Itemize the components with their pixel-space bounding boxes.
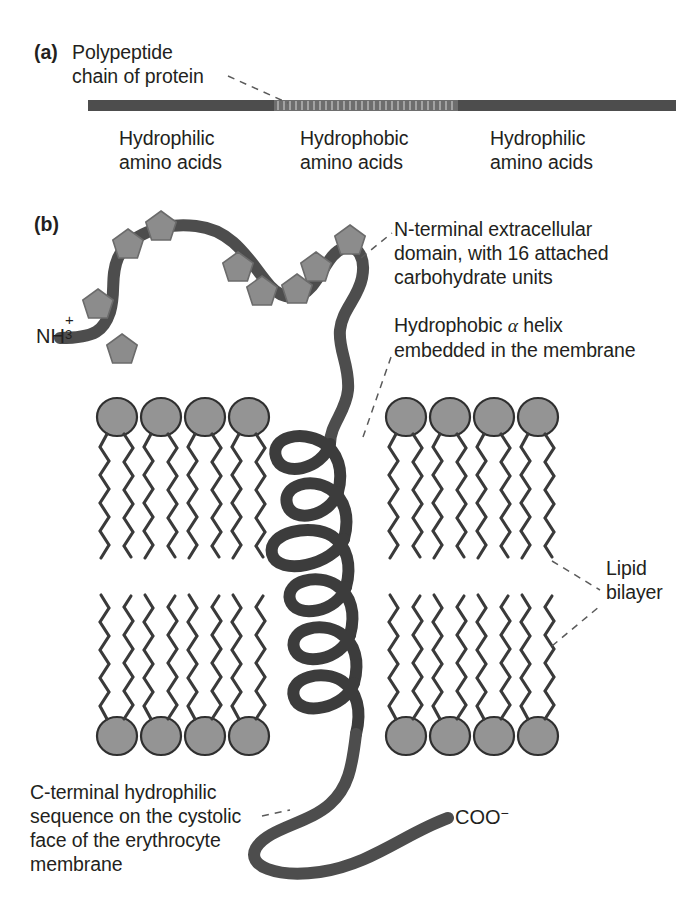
lipids-lower-left [97,595,269,755]
lipids-upper-right [386,398,558,558]
segment-label-hydrophobic: Hydrophobic amino acids [300,126,408,174]
leader-lipid-bilayer-upper [552,561,600,590]
n-terminus-charge: + [65,311,74,328]
annotation-hydrophobic-helix: Hydrophobic α helix embedded in the memb… [394,313,636,362]
c-terminus-formula: COO [455,806,501,828]
annotation-helix-text-before: Hydrophobic [394,314,508,336]
lipids-upper-left [97,398,269,558]
n-terminus-label: NH+3 [36,323,74,348]
alpha-helix [272,436,359,734]
annotation-n-terminal-domain: N-terminal extracellular domain, with 16… [394,217,608,289]
bar-hydrophilic-right [458,100,676,111]
annotation-lipid-bilayer: Lipid bilayer [606,556,663,604]
panel-a-tag: (a) [34,41,58,64]
chain-cytosolic-segment [254,734,448,874]
panel-b-tag: (b) [34,213,59,236]
bar-hydrophilic-left [88,100,274,111]
leader-polypeptide-chain [228,76,288,103]
c-terminus-label: COO− [455,805,509,829]
figure-canvas: (a) Polypeptide chain of protein Hydroph… [0,0,682,921]
protein-chain [60,225,448,873]
leader-lipid-bilayer-lower [552,606,600,646]
n-terminus-formula: NH [36,325,65,347]
panel-a-callout: Polypeptide chain of protein [72,40,204,88]
leader-c-terminal-sequence [262,810,290,816]
segment-label-hydrophilic-left: Hydrophilic amino acids [119,126,222,174]
segment-label-hydrophilic-right: Hydrophilic amino acids [490,126,593,174]
c-terminus-charge: − [501,805,509,821]
n-terminus-subscript: 3 [65,327,72,342]
alpha-symbol: α [508,315,518,336]
annotation-c-terminal-sequence: C-terminal hydrophilic sequence on the c… [30,780,241,876]
lipids-lower-right [386,595,558,755]
